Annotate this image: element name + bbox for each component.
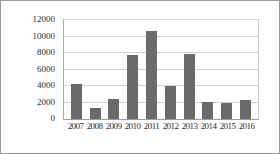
bar[interactable] xyxy=(240,100,251,119)
bar-slot xyxy=(217,20,236,119)
bar[interactable] xyxy=(184,54,195,119)
bar[interactable] xyxy=(221,103,232,119)
y-axis-tick-label: 2000 xyxy=(37,97,55,106)
bar[interactable] xyxy=(202,102,213,119)
plot-area xyxy=(63,19,259,120)
x-axis-tick-label: 2011 xyxy=(142,122,161,132)
x-axis-tick-label: 2013 xyxy=(180,122,199,132)
x-axis-tick-label: 2009 xyxy=(104,122,123,132)
y-axis-tick-label: 6000 xyxy=(37,64,55,73)
bar-slot xyxy=(236,20,255,119)
bar-slot xyxy=(142,20,161,119)
bar[interactable] xyxy=(90,108,101,119)
x-axis-tick-labels: 2007200820092010201120122013201420152016 xyxy=(63,122,259,132)
bar[interactable] xyxy=(165,86,176,119)
bar-slot xyxy=(180,20,199,119)
bar-series xyxy=(64,20,258,119)
y-axis-tick-label: 4000 xyxy=(37,81,55,90)
x-axis-tick-label: 2016 xyxy=(237,122,256,132)
bar[interactable] xyxy=(108,99,119,119)
bar-slot xyxy=(123,20,142,119)
bar-slot xyxy=(67,20,86,119)
y-axis-tick-label: 12000 xyxy=(33,15,56,24)
bar[interactable] xyxy=(127,55,138,119)
y-axis-tick-labels: 020004000600080001000012000 xyxy=(1,19,59,120)
x-axis-tick-label: 2015 xyxy=(218,122,237,132)
bar[interactable] xyxy=(71,84,82,119)
x-axis-tick-label: 2008 xyxy=(85,122,104,132)
x-axis-tick-label: 2012 xyxy=(161,122,180,132)
bar-slot xyxy=(105,20,124,119)
bar-slot xyxy=(199,20,218,119)
y-axis-tick-label: 10000 xyxy=(33,31,56,40)
chart-image-frame: 020004000600080001000012000 200720082009… xyxy=(0,0,280,154)
x-axis-tick-label: 2007 xyxy=(66,122,85,132)
x-axis-tick-label: 2014 xyxy=(199,122,218,132)
x-axis-tick-label: 2010 xyxy=(123,122,142,132)
bar-slot xyxy=(161,20,180,119)
y-axis-tick-label: 8000 xyxy=(37,48,55,57)
bar-slot xyxy=(86,20,105,119)
bar[interactable] xyxy=(146,31,157,119)
y-axis-tick-label: 0 xyxy=(51,114,56,123)
